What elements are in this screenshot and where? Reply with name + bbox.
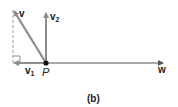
point-p bbox=[43, 60, 48, 65]
vector-projection-diagram: v v2 v1 P w (b) bbox=[0, 0, 178, 107]
right-angle-marker bbox=[13, 56, 20, 63]
label-v2: v2 bbox=[50, 11, 60, 23]
label-w: w bbox=[157, 64, 166, 75]
figure-caption: (b) bbox=[87, 93, 100, 104]
label-v1: v1 bbox=[25, 65, 35, 77]
label-v: v bbox=[19, 8, 25, 19]
label-p: P bbox=[42, 66, 50, 78]
